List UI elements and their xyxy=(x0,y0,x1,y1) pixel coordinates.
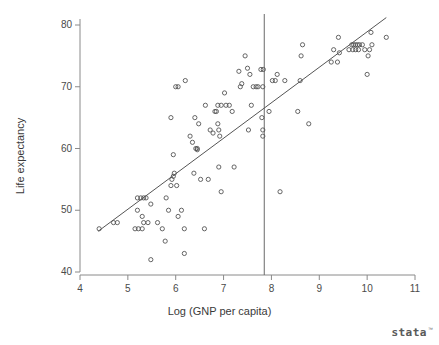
x-tick-label: 11 xyxy=(410,284,420,294)
x-tick-label: 7 xyxy=(221,284,227,294)
scatter-point xyxy=(370,43,374,47)
scatter-point xyxy=(182,227,186,231)
scatter-point xyxy=(365,72,369,76)
scatter-plot-canvas xyxy=(0,0,439,345)
axes-group xyxy=(80,19,415,275)
scatter-point xyxy=(222,91,226,95)
scatter-point xyxy=(149,202,153,206)
scatter-point xyxy=(296,109,300,113)
scatter-point xyxy=(248,72,252,76)
scatter-point xyxy=(384,35,388,39)
x-tick-label: 8 xyxy=(269,284,275,294)
scatter-point xyxy=(260,116,264,120)
scatter-point xyxy=(160,227,164,231)
scatter-point xyxy=(169,116,173,120)
scatter-point xyxy=(176,214,180,218)
y-tick-label: 80 xyxy=(48,20,72,30)
scatter-point xyxy=(243,54,247,58)
y-tick-label: 70 xyxy=(48,82,72,92)
scatter-point xyxy=(203,103,207,107)
scatter-point xyxy=(163,239,167,243)
scatter-point xyxy=(366,54,370,58)
x-axis-title: Log (GNP per capita) xyxy=(0,305,439,317)
scatter-point xyxy=(267,109,271,113)
scatter-point xyxy=(230,109,234,113)
scatter-point xyxy=(206,177,210,181)
scatter-point xyxy=(202,227,206,231)
scatter-point xyxy=(217,128,221,132)
scatter-point xyxy=(211,131,215,135)
scatter-point xyxy=(363,48,367,52)
scatter-point xyxy=(135,208,139,212)
scatter-point xyxy=(278,190,282,194)
scatter-point xyxy=(199,177,203,181)
scatter-point xyxy=(299,54,303,58)
axis-ticks-group xyxy=(75,25,415,280)
scatter-point xyxy=(329,60,333,64)
scatter-point xyxy=(335,60,339,64)
scatter-point xyxy=(336,35,340,39)
scatter-point xyxy=(219,190,223,194)
scatter-point xyxy=(182,251,186,255)
scatter-point xyxy=(155,221,159,225)
stata-logo-text: stata xyxy=(391,326,427,339)
scatter-point xyxy=(360,43,364,47)
data-points-group xyxy=(97,30,388,261)
scatter-point xyxy=(232,165,236,169)
scatter-point xyxy=(245,66,249,70)
scatter-point xyxy=(249,103,253,107)
x-tick-label: 5 xyxy=(125,284,131,294)
scatter-point xyxy=(216,122,220,126)
scatter-point xyxy=(246,128,250,132)
scatter-point xyxy=(307,122,311,126)
scatter-point xyxy=(193,116,197,120)
scatter-point xyxy=(169,183,173,187)
x-tick-label: 10 xyxy=(362,284,373,294)
scatter-point xyxy=(300,43,304,47)
annotations-group xyxy=(98,14,386,275)
scatter-point xyxy=(237,69,241,73)
y-tick-label: 50 xyxy=(48,205,72,215)
scatter-point xyxy=(142,221,146,225)
scatter-point xyxy=(171,153,175,157)
scatter-point xyxy=(356,48,360,52)
stata-logo: stata ™ xyxy=(391,326,433,339)
scatter-point xyxy=(164,196,168,200)
scatter-point xyxy=(140,214,144,218)
scatter-point xyxy=(197,122,201,126)
scatter-point xyxy=(332,48,336,52)
scatter-point xyxy=(217,165,221,169)
chart-figure: 40506070804567891011 Log (GNP per capita… xyxy=(0,0,439,345)
y-axis-title: Life expectancy xyxy=(14,96,26,216)
scatter-point xyxy=(283,78,287,82)
x-tick-label: 9 xyxy=(317,284,323,294)
scatter-point xyxy=(369,30,373,34)
scatter-point xyxy=(183,78,187,82)
scatter-point xyxy=(275,72,279,76)
scatter-point xyxy=(175,183,179,187)
scatter-point xyxy=(179,208,183,212)
scatter-point xyxy=(367,48,371,52)
y-tick-label: 60 xyxy=(48,144,72,154)
scatter-point xyxy=(273,78,277,82)
scatter-point xyxy=(149,258,153,262)
y-tick-label: 40 xyxy=(48,267,72,277)
scatter-point xyxy=(188,134,192,138)
x-tick-label: 4 xyxy=(77,284,83,294)
scatter-point xyxy=(190,140,194,144)
scatter-point xyxy=(192,171,196,175)
scatter-point xyxy=(218,134,222,138)
scatter-point xyxy=(166,208,170,212)
trademark-icon: ™ xyxy=(428,327,433,332)
x-tick-label: 6 xyxy=(173,284,179,294)
regression-fit-line xyxy=(98,18,386,232)
scatter-point xyxy=(146,221,150,225)
